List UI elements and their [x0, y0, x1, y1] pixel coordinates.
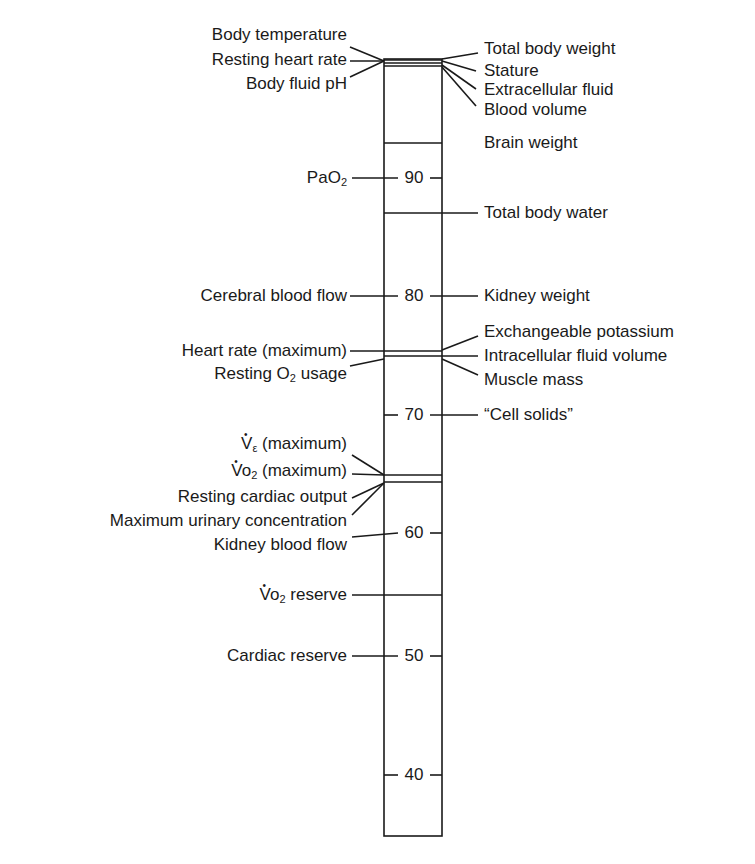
label-resting-cardiac-output: Resting cardiac output [178, 487, 347, 507]
label-intracellular-fluid-volume: Intracellular fluid volume [484, 346, 667, 366]
label-stature: Stature [484, 61, 539, 81]
label-muscle-mass: Muscle mass [484, 370, 583, 390]
label-kidney-blood-flow: Kidney blood flow [214, 535, 347, 555]
label-vo2-maximum: Vo2 (maximum) [231, 461, 347, 481]
label-total-body-water: Total body water [484, 203, 608, 223]
tick-80: 80 [402, 286, 427, 306]
label-cardiac-reserve: Cardiac reserve [227, 646, 347, 666]
label-ve-maximum: Vε (maximum) [241, 434, 347, 454]
tick-40: 40 [402, 765, 427, 785]
tick-60: 60 [402, 523, 427, 543]
label-kidney-weight: Kidney weight [484, 286, 590, 306]
label-resting-heart-rate: Resting heart rate [212, 50, 347, 70]
scale-lines [0, 0, 755, 864]
label-heart-rate-maximum: Heart rate (maximum) [182, 341, 347, 361]
label-resting-o2-usage: Resting O2 usage [214, 364, 347, 384]
label-cerebral-blood-flow: Cerebral blood flow [201, 286, 347, 306]
tick-50: 50 [402, 646, 427, 666]
label-pao2: PaO2 [307, 168, 347, 188]
label-body-fluid-ph: Body fluid pH [246, 74, 347, 94]
label-exchangeable-potassium: Exchangeable potassium [484, 322, 674, 342]
label-maximum-urinary-concentration: Maximum urinary concentration [110, 511, 347, 531]
aging-physiology-scale-diagram: 90 80 70 60 50 40 Body temperature Resti… [0, 0, 755, 864]
label-vo2-reserve: Vo2 reserve [260, 585, 347, 605]
label-brain-weight: Brain weight [484, 133, 578, 153]
label-body-temperature: Body temperature [212, 25, 347, 45]
label-blood-volume: Blood volume [484, 100, 587, 120]
tick-70: 70 [402, 405, 427, 425]
tick-90: 90 [402, 168, 427, 188]
label-cell-solids: “Cell solids” [484, 405, 573, 425]
label-total-body-weight: Total body weight [484, 39, 615, 59]
label-extracellular-fluid: Extracellular fluid [484, 80, 613, 100]
